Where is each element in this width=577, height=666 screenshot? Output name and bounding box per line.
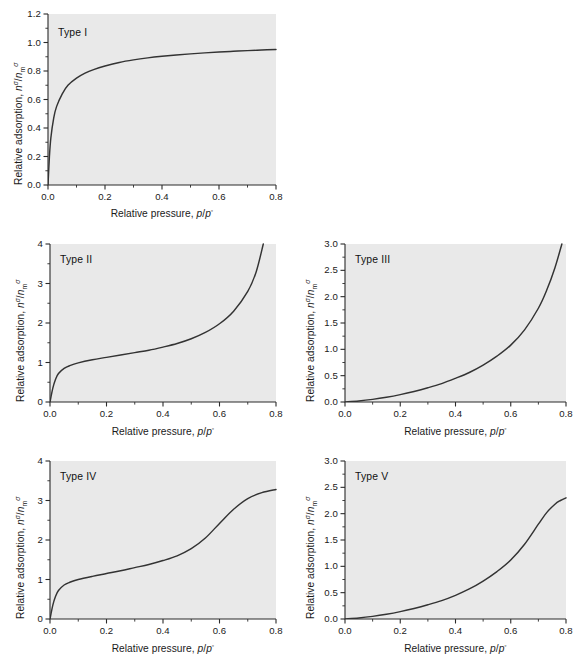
y-tick-label: 0.0 xyxy=(305,396,338,407)
y-tick-label: 1.0 xyxy=(305,343,338,354)
y-tick-label: 0.8 xyxy=(8,65,41,76)
x-tick-label: 0.0 xyxy=(30,625,70,636)
x-tick-label: 0.4 xyxy=(436,408,476,419)
panel-label: Type IV xyxy=(60,471,96,482)
panel-label: Type III xyxy=(355,254,390,265)
x-tick-label: 0.2 xyxy=(87,625,127,636)
y-tick-label: 2 xyxy=(10,317,43,328)
chart-panel-type-iii: Type III Relative pressure, p/p◦ Relativ… xyxy=(290,232,577,449)
y-tick-label: 1 xyxy=(10,357,43,368)
x-tick-label: 0.6 xyxy=(199,191,239,202)
x-tick-label: 0.8 xyxy=(546,625,577,636)
y-axis-title: Relative adsorption, nσ/nmσ xyxy=(14,279,28,402)
y-tick-label: 1.5 xyxy=(305,534,338,545)
x-tick-label: 0.2 xyxy=(85,191,125,202)
y-axis-title: Relative adsorption, nσ/nmσ xyxy=(14,496,28,619)
x-tick-label: 0.8 xyxy=(546,408,577,419)
y-tick-label: 2.0 xyxy=(305,508,338,519)
x-tick-label: 0.6 xyxy=(200,408,240,419)
y-tick-label: 1.2 xyxy=(8,8,41,19)
y-tick-label: 4 xyxy=(10,238,43,249)
y-tick-label: 1.0 xyxy=(8,37,41,48)
y-tick-label: 1.5 xyxy=(305,317,338,328)
x-axis-title: Relative pressure, p/p◦ xyxy=(345,642,566,654)
x-tick-label: 0.2 xyxy=(87,408,127,419)
isotherm-curve xyxy=(48,49,276,185)
isotherm-curve xyxy=(345,244,562,402)
isotherm-curve xyxy=(50,489,276,619)
y-tick-label: 0.0 xyxy=(305,613,338,624)
isotherm-curve xyxy=(50,244,263,402)
y-tick-label: 0.2 xyxy=(8,151,41,162)
x-tick-label: 0.2 xyxy=(380,625,420,636)
isotherm-curve xyxy=(345,498,566,619)
x-tick-label: 0.2 xyxy=(380,408,420,419)
y-tick-label: 3 xyxy=(10,278,43,289)
chart-panel-type-i: Type I Relative pressure, p/p◦ Relative … xyxy=(0,0,300,232)
y-tick-label: 2 xyxy=(10,534,43,545)
chart-panel-type-ii: Type II Relative pressure, p/p◦ Relative… xyxy=(0,232,300,449)
x-tick-label: 0.4 xyxy=(143,408,183,419)
y-tick-label: 3 xyxy=(10,495,43,506)
y-tick-label: 0.6 xyxy=(8,94,41,105)
x-tick-label: 0.6 xyxy=(491,408,531,419)
x-tick-label: 0.4 xyxy=(142,191,182,202)
y-tick-label: 1 xyxy=(10,574,43,585)
chart-panel-type-v: Type V Relative pressure, p/p◦ Relative … xyxy=(290,449,577,666)
x-tick-label: 0.0 xyxy=(28,191,68,202)
y-tick-label: 0.5 xyxy=(305,370,338,381)
y-tick-label: 3.0 xyxy=(305,238,338,249)
x-tick-label: 0.0 xyxy=(325,625,365,636)
chart-panel-type-iv: Type IV Relative pressure, p/p◦ Relative… xyxy=(0,449,300,666)
x-axis-title: Relative pressure, p/p◦ xyxy=(48,207,276,219)
y-tick-label: 2.5 xyxy=(305,481,338,492)
y-tick-label: 0.4 xyxy=(8,122,41,133)
y-tick-label: 2.0 xyxy=(305,291,338,302)
y-tick-label: 4 xyxy=(10,455,43,466)
y-tick-label: 1.0 xyxy=(305,560,338,571)
y-tick-label: 2.5 xyxy=(305,264,338,275)
y-tick-label: 0 xyxy=(10,613,43,624)
x-tick-label: 0.8 xyxy=(256,191,296,202)
x-tick-label: 0.0 xyxy=(30,408,70,419)
x-tick-label: 0.4 xyxy=(436,625,476,636)
y-tick-label: 0.0 xyxy=(8,179,41,190)
x-tick-label: 0.0 xyxy=(325,408,365,419)
panel-label: Type V xyxy=(355,471,388,482)
x-tick-label: 0.6 xyxy=(200,625,240,636)
x-tick-label: 0.6 xyxy=(491,625,531,636)
panel-label: Type I xyxy=(58,27,87,38)
x-tick-label: 0.4 xyxy=(143,625,183,636)
panel-label: Type II xyxy=(60,254,92,265)
x-axis-title: Relative pressure, p/p◦ xyxy=(50,425,276,437)
y-tick-label: 3.0 xyxy=(305,455,338,466)
y-tick-label: 0 xyxy=(10,396,43,407)
y-tick-label: 0.5 xyxy=(305,587,338,598)
x-axis-title: Relative pressure, p/p◦ xyxy=(50,642,276,654)
adsorption-isotherm-figure: Type I Relative pressure, p/p◦ Relative … xyxy=(0,0,577,666)
x-axis-title: Relative pressure, p/p◦ xyxy=(345,425,566,437)
